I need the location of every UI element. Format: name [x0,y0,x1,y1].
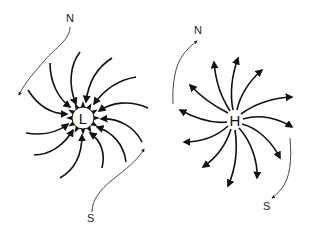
low-pressure-system: N S L [19,12,148,224]
high-north-label: N [194,24,202,36]
low-center-label: L [79,110,87,127]
pressure-systems-diagram: N S L [0,0,310,240]
high-south-path: S [263,138,291,212]
low-center-star: L [66,101,100,135]
low-north-path: N [19,12,74,95]
low-south-label: S [87,212,94,224]
high-center-label: H [230,112,241,129]
high-south-label: S [263,200,270,212]
low-south-path: S [87,149,144,224]
high-pressure-system: N S H [173,24,292,212]
low-north-label: N [66,12,74,24]
